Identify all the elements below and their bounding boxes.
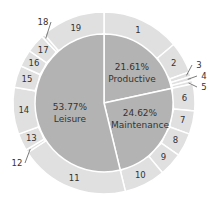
outer-label-7: 7: [180, 115, 185, 125]
inner-label-leisure: Leisure: [54, 114, 87, 124]
outer-label-1: 1: [135, 25, 140, 35]
outer-label-12: 12: [12, 158, 23, 168]
outer-label-6: 6: [182, 93, 187, 103]
outer-label-4: 4: [201, 71, 206, 81]
outer-label-13: 13: [26, 133, 37, 143]
inner-percent-leisure: 53.77%: [53, 102, 88, 112]
outer-label-11: 11: [69, 173, 80, 183]
outer-label-15: 15: [22, 74, 33, 84]
outer-label-14: 14: [18, 105, 29, 115]
outer-label-3: 3: [196, 60, 201, 70]
outer-label-9: 9: [161, 152, 166, 162]
outer-label-10: 10: [135, 170, 146, 180]
inner-label-productive: Productive: [108, 74, 156, 84]
sunburst-chart: 1234567891011121314151617181921.61%Produ…: [0, 0, 218, 203]
outer-label-16: 16: [29, 58, 40, 68]
inner-percent-productive: 21.61%: [115, 62, 150, 72]
inner-label-maintenance: Maintenance: [111, 120, 169, 130]
outer-label-8: 8: [173, 135, 178, 145]
outer-label-2: 2: [171, 58, 176, 68]
outer-label-5: 5: [201, 82, 206, 92]
outer-label-18: 18: [38, 17, 49, 27]
chart-canvas: 1234567891011121314151617181921.61%Produ…: [0, 0, 218, 203]
outer-label-17: 17: [38, 45, 49, 55]
outer-label-19: 19: [70, 23, 81, 33]
inner-percent-maintenance: 24.62%: [123, 108, 158, 118]
